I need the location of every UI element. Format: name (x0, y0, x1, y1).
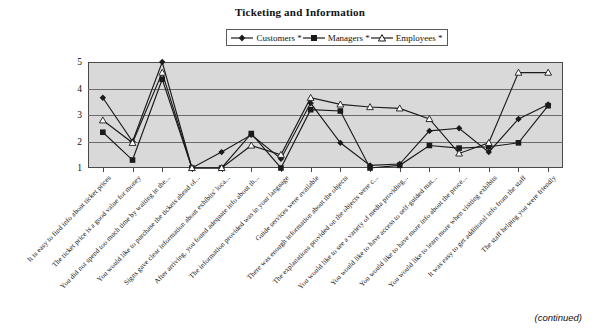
x-axis-label-2: You did not spend too much time by waiti… (59, 174, 172, 291)
plot-area (88, 62, 563, 168)
data-point (248, 131, 254, 137)
legend-marker-filled-square (303, 33, 325, 43)
data-point (100, 129, 106, 135)
x-axis-label-10: You would like to see a variety of media… (296, 174, 409, 291)
data-point (99, 117, 106, 123)
data-point (338, 108, 344, 114)
data-point (100, 95, 106, 101)
x-axis-labels: It is easy to find info about ticket pri… (0, 168, 600, 298)
data-point (485, 139, 492, 145)
x-axis-label-12: You would like to have more info about t… (358, 174, 469, 288)
legend-item-customers: Customers * (231, 33, 301, 43)
legend-item-managers: Managers * (303, 33, 370, 43)
x-axis-label-13: You would like to learn more when visiti… (387, 174, 499, 289)
legend-item-employees: Employees * (371, 33, 443, 43)
data-point (545, 103, 551, 109)
data-point (427, 143, 433, 149)
data-point (130, 157, 136, 163)
y-tick-label-3: 3 (70, 110, 82, 120)
chart-title: Ticketing and Information (0, 6, 600, 18)
legend-label-employees: Employees * (396, 33, 443, 43)
y-tick-label-5: 5 (70, 57, 82, 67)
data-point (307, 94, 314, 100)
data-point (248, 142, 255, 148)
series-layer (88, 62, 563, 168)
series-employees (99, 69, 551, 170)
x-axis-label-11: You would like to have access to self-gu… (330, 174, 440, 287)
x-axis-label-4: Signs gave clear information about exhib… (122, 174, 231, 287)
continued-note: (continued) (534, 312, 582, 323)
series-customers (100, 59, 552, 171)
y-tick-label-2: 2 (70, 137, 82, 147)
data-point (159, 59, 165, 65)
legend-label-customers: Customers * (256, 33, 301, 43)
data-point (516, 140, 522, 146)
y-tick-label-4: 4 (70, 84, 82, 94)
x-axis-label-9: The explanations provided on the objects… (271, 174, 379, 286)
legend-marker-filled-diamond (231, 33, 253, 43)
data-point (308, 107, 314, 113)
data-point (218, 149, 224, 155)
legend-label-managers: Managers * (328, 33, 370, 43)
figure-root: Ticketing and Information Customers * Ma… (0, 0, 600, 332)
x-axis-label-5: After arriving, you found adequate info … (153, 174, 261, 285)
legend-marker-open-triangle (371, 33, 393, 43)
chart-legend: Customers * Managers * Employees * (226, 29, 448, 46)
